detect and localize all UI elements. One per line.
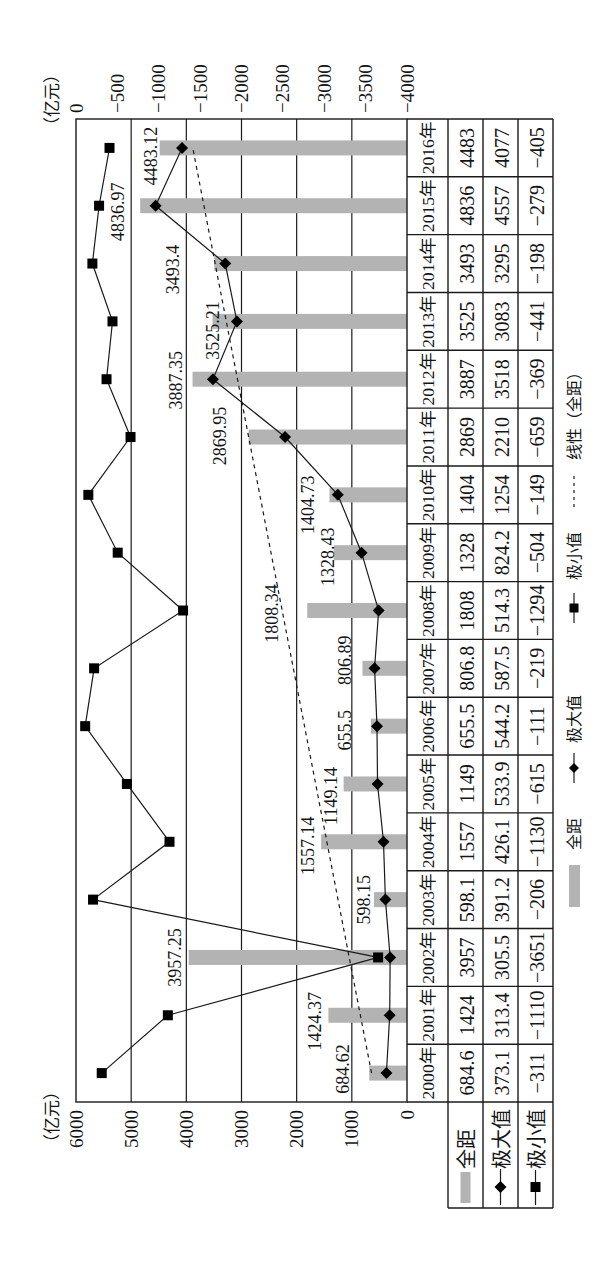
table-cell: 3083 bbox=[491, 301, 513, 341]
data-label: 655.5 bbox=[335, 710, 355, 751]
table-cell: 2869 bbox=[456, 417, 478, 457]
square-marker bbox=[80, 721, 90, 731]
table-cell: 426.1 bbox=[491, 819, 513, 864]
table-cell: 305.5 bbox=[491, 935, 513, 980]
table-cell: 684.6 bbox=[456, 1051, 478, 1096]
table-cell: 3887 bbox=[456, 359, 478, 399]
legend-item-max: 极大值 bbox=[566, 695, 583, 783]
primary-axis: 0100020003000400050006000 bbox=[66, 1110, 418, 1148]
table-cell: 391.2 bbox=[491, 877, 513, 922]
table-cell: 3295 bbox=[491, 244, 513, 284]
primary-tick-label: 1000 bbox=[341, 1110, 362, 1148]
table-cell: 514.3 bbox=[491, 588, 513, 633]
rotated-figure: 684.621424.373957.25598.151557.141149.14… bbox=[0, 0, 610, 1283]
range-bar bbox=[307, 603, 407, 618]
data-label: 806.89 bbox=[335, 636, 355, 686]
table-cell: −405 bbox=[526, 127, 548, 168]
table-cell: −111 bbox=[526, 706, 548, 746]
data-label: 3887.35 bbox=[166, 351, 186, 410]
table-cell: −206 bbox=[526, 879, 548, 920]
table-cell: −504 bbox=[526, 532, 548, 573]
square-marker bbox=[94, 201, 104, 211]
table-cell: −219 bbox=[526, 648, 548, 689]
table-cell: −369 bbox=[526, 359, 548, 400]
square-marker bbox=[105, 143, 115, 153]
table-cell: 4836 bbox=[456, 186, 478, 226]
table-cell: 655.5 bbox=[456, 704, 478, 749]
primary-tick-label: 6000 bbox=[66, 1110, 87, 1148]
table-cell: 3957 bbox=[456, 937, 478, 977]
legend: 全距极大值极小值线性（全距） bbox=[566, 364, 583, 907]
table-year-cell: 2007年 bbox=[419, 642, 438, 695]
table-cell: 4557 bbox=[491, 186, 513, 226]
table-cell: 3493 bbox=[456, 244, 478, 284]
data-label: 1557.14 bbox=[298, 817, 318, 876]
data-label: 1149.14 bbox=[321, 767, 341, 825]
square-marker bbox=[102, 374, 112, 384]
table-cell: 313.4 bbox=[491, 993, 513, 1038]
primary-tick-label: 2000 bbox=[286, 1110, 307, 1148]
legend-bar-key-icon bbox=[461, 1172, 471, 1203]
table-cell: 544.2 bbox=[491, 704, 513, 749]
table-year-cell: 2006年 bbox=[419, 700, 438, 753]
secondary-tick-label: −2000 bbox=[231, 64, 252, 113]
data-label: 1808.34 bbox=[262, 584, 282, 643]
secondary-tick-label: 0 bbox=[66, 104, 87, 114]
data-label: 684.62 bbox=[333, 1044, 353, 1094]
legend-item-trend: 线性（全距） bbox=[566, 364, 583, 507]
secondary-axis: 0−500−1000−1500−2000−2500−3000−3500−4000 bbox=[66, 64, 418, 113]
diamond-icon bbox=[495, 1181, 507, 1193]
table-cell: 1557 bbox=[456, 822, 478, 862]
legend-label: 极大值 bbox=[566, 695, 583, 743]
table-year-cell: 2003年 bbox=[419, 873, 438, 926]
table-cell: 806.8 bbox=[456, 646, 478, 691]
legend-label: 全距 bbox=[566, 818, 583, 850]
table-year-cell: 2012年 bbox=[419, 353, 438, 406]
table-year-cell: 2004年 bbox=[419, 815, 438, 868]
secondary-tick-label: −1500 bbox=[190, 64, 211, 113]
square-marker bbox=[126, 432, 136, 442]
legend-label: 线性（全距） bbox=[566, 364, 583, 460]
secondary-tick-label: −500 bbox=[107, 74, 128, 113]
range-bar bbox=[160, 140, 407, 155]
table-cell: 373.1 bbox=[491, 1051, 513, 1096]
table-cell: 1254 bbox=[491, 475, 513, 515]
data-label: 4483.12 bbox=[141, 127, 161, 186]
table-row: 极大值373.1313.4305.5391.2426.1533.9544.258… bbox=[491, 128, 513, 1205]
table-cell: −659 bbox=[526, 416, 548, 457]
legend-item-range: 全距 bbox=[566, 818, 583, 907]
legend-label: 极小值 bbox=[566, 532, 583, 580]
square-marker bbox=[107, 316, 117, 326]
square-marker bbox=[178, 606, 188, 616]
table-year-cell: 2000年 bbox=[419, 1047, 438, 1100]
table-row: 极小值−311−1110−3651−206−1130−615−111−219−1… bbox=[526, 127, 548, 1205]
table-cell: 1149 bbox=[456, 764, 478, 803]
data-table: 2000年2001年2002年2003年2004年2005年2006年2007年… bbox=[407, 119, 553, 1208]
table-cell: 3525 bbox=[456, 301, 478, 341]
table-cell: −1130 bbox=[526, 817, 548, 868]
primary-axis-unit: （亿元） bbox=[43, 1083, 62, 1151]
table-year-cell: 2010年 bbox=[419, 468, 438, 521]
square-marker bbox=[163, 1010, 173, 1020]
range-bar bbox=[193, 372, 407, 387]
square-icon bbox=[531, 1182, 541, 1192]
range-bar bbox=[334, 545, 407, 560]
table-cell: −3651 bbox=[526, 932, 548, 983]
table-year-cell: 2005年 bbox=[419, 758, 438, 811]
table-cell: −149 bbox=[526, 474, 548, 515]
secondary-tick-label: −4000 bbox=[397, 64, 418, 113]
table-cell: −441 bbox=[526, 301, 548, 342]
primary-tick-label: 3000 bbox=[231, 1110, 252, 1148]
diamond-icon bbox=[569, 763, 579, 773]
data-label: 2869.95 bbox=[210, 407, 230, 466]
table-year-cell: 2014年 bbox=[419, 237, 438, 290]
secondary-tick-label: −1000 bbox=[148, 64, 169, 113]
primary-tick-label: 0 bbox=[397, 1110, 418, 1120]
primary-tick-label: 4000 bbox=[176, 1110, 197, 1148]
square-marker bbox=[122, 779, 132, 789]
range-bar bbox=[249, 430, 407, 445]
table-cell: 1328 bbox=[456, 533, 478, 573]
table-cell: 3518 bbox=[491, 359, 513, 399]
table-year-cell: 2002年 bbox=[419, 931, 438, 984]
table-cell: 587.5 bbox=[491, 646, 513, 691]
